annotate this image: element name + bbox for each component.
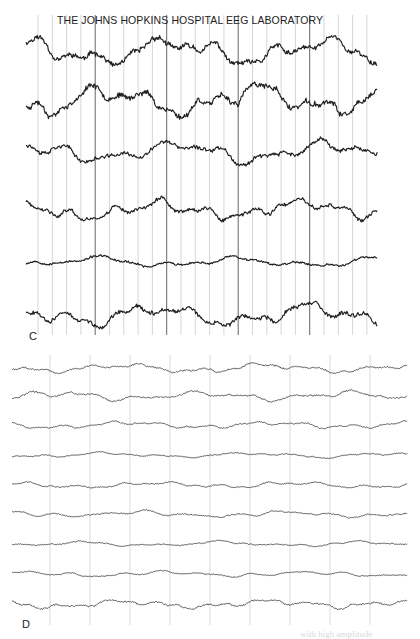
panel-c-label: C <box>29 330 37 342</box>
eeg-channel-trace <box>12 451 407 458</box>
eeg-channel-trace <box>26 35 377 66</box>
eeg-channel-trace <box>12 570 407 577</box>
panel-c-time-gridlines <box>38 15 367 335</box>
eeg-channel-trace <box>12 420 407 429</box>
eeg-channel-trace <box>26 196 377 222</box>
eeg-panel-d <box>12 355 407 625</box>
eeg-channel-trace <box>12 510 407 519</box>
eeg-channel-trace <box>12 363 407 374</box>
figure-caption-fragment: with high amplitude <box>300 629 373 639</box>
eeg-channel-trace <box>26 255 377 268</box>
panel-d-eeg-channels <box>12 363 407 610</box>
eeg-channel-trace <box>12 390 407 403</box>
eeg-channel-trace <box>12 600 407 610</box>
eeg-channel-trace <box>26 137 377 166</box>
panel-c-eeg-channels <box>26 35 377 329</box>
eeg-panel-c <box>26 15 377 335</box>
eeg-recording-figure <box>0 0 420 639</box>
panel-d-label: D <box>22 618 30 630</box>
lab-header-stamp: THE JOHNS HOPKINS HOSPITAL EEG LABORATOR… <box>57 14 323 26</box>
eeg-channel-trace <box>12 481 407 488</box>
eeg-channel-trace <box>26 82 377 119</box>
eeg-channel-trace <box>12 540 407 547</box>
eeg-channel-trace <box>26 301 377 329</box>
